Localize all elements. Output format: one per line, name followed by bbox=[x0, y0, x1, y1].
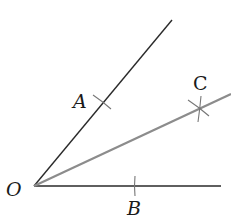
arc-mark-b bbox=[135, 176, 136, 196]
bisector-oc bbox=[34, 94, 231, 186]
angle-bisector-diagram: O A B C bbox=[0, 0, 231, 223]
ray-oa bbox=[34, 20, 172, 186]
label-b: B bbox=[126, 197, 141, 219]
diagram-canvas: O A B C bbox=[0, 0, 231, 223]
label-a: A bbox=[71, 90, 87, 112]
label-c: C bbox=[193, 72, 208, 94]
label-o: O bbox=[6, 178, 22, 200]
